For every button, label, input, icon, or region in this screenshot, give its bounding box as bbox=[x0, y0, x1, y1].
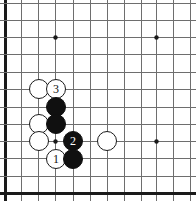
stone-layer: 321 bbox=[0, 0, 196, 201]
white-stone-f[interactable] bbox=[97, 131, 117, 151]
move-number-label: 1 bbox=[53, 153, 59, 165]
move-number-label: 3 bbox=[53, 83, 59, 95]
white-stone-move-3[interactable]: 3 bbox=[46, 79, 66, 99]
black-stone-g[interactable] bbox=[63, 149, 83, 169]
black-stone-d[interactable] bbox=[46, 114, 66, 134]
go-board-diagram: 321 bbox=[0, 0, 196, 201]
move-number-label: 2 bbox=[70, 135, 76, 147]
black-stone-move-2[interactable]: 2 bbox=[63, 131, 83, 151]
white-stone-e[interactable] bbox=[29, 131, 49, 151]
